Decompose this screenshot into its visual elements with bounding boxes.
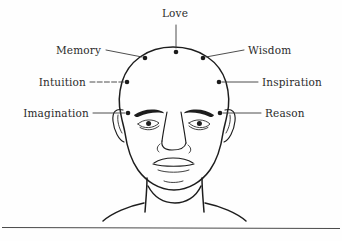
neck-base <box>148 186 201 203</box>
mouth-lower-lip <box>158 170 189 172</box>
mouth-line <box>153 164 194 166</box>
point-dot-imagination[interactable] <box>126 111 131 116</box>
neck-right <box>202 178 204 212</box>
eyebrow-left <box>134 110 164 118</box>
chin-crease <box>164 181 183 183</box>
label-reason: Reason <box>265 107 305 119</box>
point-dot-memory[interactable] <box>143 56 148 61</box>
nose-bridge-left <box>162 112 167 141</box>
eye-right-pupil <box>197 121 202 126</box>
eyebrow-right <box>184 110 214 118</box>
leader-line-wisdom <box>206 50 244 57</box>
label-memory: Memory <box>56 44 101 56</box>
label-love: Love <box>162 7 188 19</box>
nostril-left <box>157 144 160 152</box>
shoulder-right <box>205 203 246 221</box>
faculty-points <box>125 50 223 116</box>
leader-line-memory <box>106 50 142 57</box>
label-intuition: Intuition <box>39 76 86 88</box>
head-outline <box>119 47 229 190</box>
label-imagination: Imagination <box>23 107 89 119</box>
leader-lines <box>90 25 261 113</box>
head-line-art <box>103 47 246 221</box>
label-wisdom: Wisdom <box>248 44 291 56</box>
point-dot-reason[interactable] <box>218 111 223 116</box>
nose-bridge-right <box>181 112 186 143</box>
point-dot-inspiration[interactable] <box>217 80 222 85</box>
head-diagram: Love Memory Wisdom Intuition Inspiration… <box>0 0 342 241</box>
eye-left-pupil <box>146 121 151 126</box>
neck-left <box>145 178 147 212</box>
figure-canvas: Love Memory Wisdom Intuition Inspiration… <box>0 0 342 241</box>
point-dot-intuition[interactable] <box>125 80 130 85</box>
label-inspiration: Inspiration <box>262 76 322 88</box>
shoulder-left <box>103 203 144 221</box>
bottom-divider <box>2 228 340 229</box>
point-dot-love[interactable] <box>174 50 179 55</box>
mouth-upper-lip <box>154 158 193 163</box>
nose-tip <box>162 141 186 150</box>
faculty-labels: Love Memory Wisdom Intuition Inspiration… <box>23 7 322 119</box>
point-dot-wisdom[interactable] <box>201 56 206 61</box>
nostril-right <box>188 145 191 153</box>
